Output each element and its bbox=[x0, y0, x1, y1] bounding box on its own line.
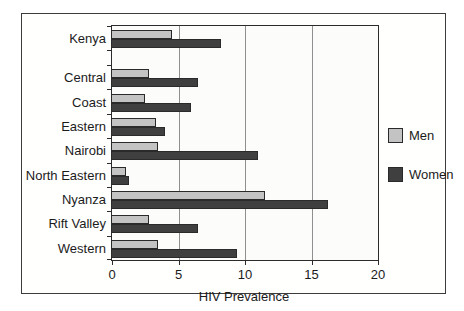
bar-group-central bbox=[112, 69, 198, 87]
category-label-nyanza: Nyanza bbox=[62, 192, 112, 207]
bar-group-western bbox=[112, 240, 237, 258]
category-label-western: Western bbox=[58, 240, 112, 255]
x-axis-tick-20 bbox=[378, 260, 379, 265]
y-axis-tick bbox=[107, 26, 111, 27]
y-axis-tick bbox=[107, 50, 111, 51]
gridline-x-15 bbox=[312, 26, 313, 260]
bar-group-nyanza bbox=[112, 191, 328, 209]
legend-label-women: Women bbox=[409, 167, 454, 182]
men-bar-kenya bbox=[112, 30, 172, 39]
legend: MenWomen bbox=[388, 128, 454, 206]
y-axis-tick bbox=[107, 89, 111, 90]
women-bar-nyanza bbox=[112, 200, 328, 209]
x-tick-label-0: 0 bbox=[108, 267, 115, 282]
men-bar-rift-valley bbox=[112, 215, 149, 224]
x-axis-tick-0 bbox=[112, 260, 113, 265]
x-axis-title: HIV Prevalence bbox=[111, 289, 377, 304]
legend-swatch-men bbox=[388, 128, 403, 143]
men-bar-nyanza bbox=[112, 191, 265, 200]
x-tick-label-10: 10 bbox=[238, 267, 252, 282]
plot-area: KenyaCentralCoastEasternNairobiNorth Eas… bbox=[111, 25, 379, 261]
legend-swatch-women bbox=[388, 167, 403, 182]
men-bar-eastern bbox=[112, 118, 156, 127]
bar-group-coast bbox=[112, 94, 191, 112]
legend-label-men: Men bbox=[409, 128, 434, 143]
category-label-eastern: Eastern bbox=[61, 118, 112, 133]
y-axis-tick bbox=[107, 187, 111, 188]
x-tick-label-5: 5 bbox=[175, 267, 182, 282]
legend-item-men: Men bbox=[388, 128, 454, 143]
bar-group-eastern bbox=[112, 118, 165, 136]
y-axis-tick bbox=[107, 211, 111, 212]
bar-group-rift-valley bbox=[112, 215, 198, 233]
x-axis-tick-15 bbox=[312, 260, 313, 265]
y-axis-tick bbox=[107, 236, 111, 237]
women-bar-north-eastern bbox=[112, 176, 129, 185]
men-bar-north-eastern bbox=[112, 167, 126, 176]
legend-item-women: Women bbox=[388, 167, 454, 182]
women-bar-coast bbox=[112, 103, 191, 112]
bar-group-north-eastern bbox=[112, 167, 129, 185]
figure-frame: KenyaCentralCoastEasternNairobiNorth Eas… bbox=[21, 13, 446, 294]
women-bar-western bbox=[112, 249, 237, 258]
women-bar-nairobi bbox=[112, 151, 258, 160]
y-axis-tick bbox=[107, 138, 111, 139]
men-bar-coast bbox=[112, 94, 145, 103]
x-tick-label-15: 15 bbox=[304, 267, 318, 282]
y-axis-tick bbox=[107, 65, 111, 66]
bar-group-nairobi bbox=[112, 142, 258, 160]
men-bar-western bbox=[112, 240, 158, 249]
women-bar-eastern bbox=[112, 127, 165, 136]
category-label-nairobi: Nairobi bbox=[65, 143, 112, 158]
y-axis-tick bbox=[107, 114, 111, 115]
y-axis-tick bbox=[107, 163, 111, 164]
y-axis-tick bbox=[107, 259, 111, 260]
category-label-north-eastern: North Eastern bbox=[26, 167, 112, 182]
men-bar-nairobi bbox=[112, 142, 158, 151]
x-axis-tick-5 bbox=[179, 260, 180, 265]
women-bar-rift-valley bbox=[112, 224, 198, 233]
x-axis-tick-10 bbox=[245, 260, 246, 265]
women-bar-central bbox=[112, 78, 198, 87]
men-bar-central bbox=[112, 69, 149, 78]
women-bar-kenya bbox=[112, 39, 221, 48]
category-label-coast: Coast bbox=[72, 94, 112, 109]
category-label-rift-valley: Rift Valley bbox=[48, 216, 112, 231]
category-label-central: Central bbox=[64, 70, 112, 85]
category-label-kenya: Kenya bbox=[69, 31, 112, 46]
x-tick-label-20: 20 bbox=[371, 267, 385, 282]
chart-screenshot: { "figure": { "background": "#ffffff", "… bbox=[0, 0, 464, 311]
bar-group-kenya bbox=[112, 30, 221, 48]
